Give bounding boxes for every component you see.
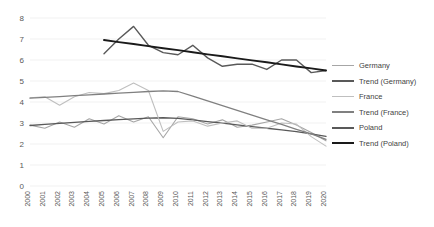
x-tick-label: 2005 bbox=[98, 191, 105, 207]
x-tick-label: 2002 bbox=[54, 191, 61, 207]
x-tick-label: 2018 bbox=[290, 191, 297, 207]
x-tick-label: 2011 bbox=[187, 191, 194, 206]
plot-area: 012345678 200020012002200320042005200620… bbox=[0, 0, 330, 227]
data-series-group bbox=[30, 26, 326, 146]
series-line-trend-poland bbox=[104, 40, 326, 70]
x-tick-label: 2004 bbox=[83, 191, 90, 207]
legend-swatch-icon bbox=[332, 142, 354, 144]
x-tick-label: 2014 bbox=[231, 191, 238, 207]
x-tick-label: 2015 bbox=[246, 191, 253, 207]
legend-item[interactable]: Trend (France) bbox=[332, 105, 434, 121]
legend-label: France bbox=[359, 93, 382, 101]
legend-swatch-icon bbox=[332, 127, 354, 129]
y-tick-label: 8 bbox=[20, 14, 25, 23]
y-tick-label: 0 bbox=[20, 182, 25, 191]
series-line-france bbox=[30, 83, 326, 146]
y-tick-label: 1 bbox=[20, 161, 25, 170]
legend-item[interactable]: Germany bbox=[332, 58, 434, 74]
legend-swatch-icon bbox=[332, 65, 354, 66]
legend-label: Poland bbox=[359, 124, 382, 132]
y-tick-label: 2 bbox=[20, 140, 25, 149]
x-axis-tick-labels: 2000200120022003200420052006200720082009… bbox=[24, 191, 327, 207]
x-tick-label: 2008 bbox=[142, 191, 149, 207]
legend-item[interactable]: Poland bbox=[332, 120, 434, 136]
legend-swatch-icon bbox=[332, 80, 354, 82]
x-tick-label: 2003 bbox=[68, 191, 75, 207]
x-tick-label: 2009 bbox=[157, 191, 164, 207]
y-axis-tick-labels: 012345678 bbox=[20, 14, 25, 191]
series-line-germany bbox=[30, 116, 326, 141]
x-tick-label: 2020 bbox=[320, 191, 327, 207]
legend-label: Trend (Germany) bbox=[359, 78, 416, 86]
x-tick-label: 2000 bbox=[24, 191, 31, 207]
legend-item[interactable]: Trend (Poland) bbox=[332, 136, 434, 152]
chart-container: 012345678 200020012002200320042005200620… bbox=[0, 0, 434, 227]
y-tick-label: 7 bbox=[20, 35, 25, 44]
legend-label: Trend (France) bbox=[359, 109, 409, 117]
line-chart-svg: 012345678 200020012002200320042005200620… bbox=[0, 0, 330, 227]
x-tick-label: 2016 bbox=[261, 191, 268, 207]
legend-label: Germany bbox=[359, 62, 390, 70]
x-tick-label: 2001 bbox=[39, 191, 46, 207]
legend-item[interactable]: Trend (Germany) bbox=[332, 74, 434, 90]
y-tick-label: 5 bbox=[20, 77, 25, 86]
legend-swatch-icon bbox=[332, 111, 354, 113]
legend-item[interactable]: France bbox=[332, 89, 434, 105]
y-tick-label: 4 bbox=[20, 98, 25, 107]
x-tick-label: 2006 bbox=[113, 191, 120, 207]
x-tick-label: 2013 bbox=[216, 191, 223, 207]
series-line-trend-france bbox=[30, 91, 326, 140]
x-tick-label: 2017 bbox=[276, 191, 283, 207]
legend-swatch-icon bbox=[332, 96, 354, 97]
legend-label: Trend (Poland) bbox=[359, 140, 409, 148]
x-tick-label: 2010 bbox=[172, 191, 179, 207]
y-tick-label: 6 bbox=[20, 56, 25, 65]
chart-legend: GermanyTrend (Germany)FranceTrend (Franc… bbox=[332, 58, 434, 151]
gridlines bbox=[30, 18, 326, 186]
x-tick-label: 2007 bbox=[128, 191, 135, 207]
x-tick-label: 2012 bbox=[202, 191, 209, 207]
x-tick-label: 2019 bbox=[305, 191, 312, 207]
y-tick-label: 3 bbox=[20, 119, 25, 128]
